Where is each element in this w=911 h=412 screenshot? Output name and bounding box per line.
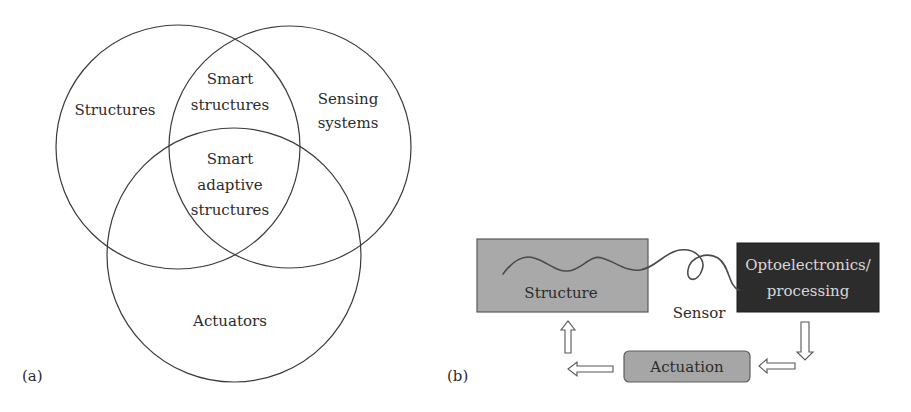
actuators-label: Actuators xyxy=(192,312,267,330)
smart-structures-line1: Smart xyxy=(207,70,254,88)
sensor-label: Sensor xyxy=(673,304,727,322)
structure-box-label: Structure xyxy=(524,284,597,302)
block-diagram: Structure Optoelectronics/ processing Se… xyxy=(447,239,879,385)
smart-adaptive-line1: Smart xyxy=(207,150,254,168)
structures-label: Structures xyxy=(75,101,156,119)
sensing-systems-circle xyxy=(169,26,411,268)
structures-circle xyxy=(56,25,300,269)
arrow-left-icon xyxy=(759,359,795,373)
processing-box xyxy=(737,243,879,312)
sensing-label-line2: systems xyxy=(318,114,379,132)
smart-adaptive-line3: structures xyxy=(191,201,269,219)
panel-a-label: (a) xyxy=(22,367,43,385)
processing-box-line2: processing xyxy=(767,282,850,300)
arrow-left-icon xyxy=(568,362,613,376)
venn-diagram: Structures Sensing systems Smart structu… xyxy=(22,25,411,385)
arrow-down-icon xyxy=(797,322,813,360)
smart-structures-line2: structures xyxy=(191,96,269,114)
sensing-label-line1: Sensing xyxy=(318,90,379,108)
arrow-up-icon xyxy=(561,321,575,353)
panel-b-label: (b) xyxy=(447,367,468,385)
smart-adaptive-line2: adaptive xyxy=(197,176,262,194)
processing-box-line1: Optoelectronics/ xyxy=(745,256,872,274)
actuation-box-label: Actuation xyxy=(649,358,724,376)
